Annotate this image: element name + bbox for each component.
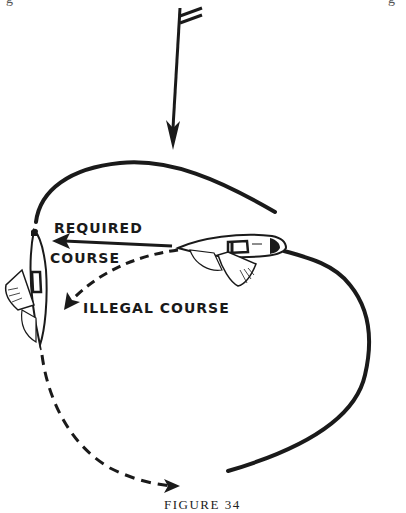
cropped-text-fragment-right: g [388,0,395,7]
boat-right-icon [178,235,286,286]
continuation-dashed-path [42,355,180,493]
required-course-label-line2: COURSE [50,250,120,266]
illegal-course-label: ILLEGAL COURSE [83,300,230,316]
cropped-text-fragment-left: g [6,0,13,7]
figure-caption: FIGURE 34 [164,497,241,513]
wind-arrow-icon [166,8,202,150]
course-line-solid [36,162,369,471]
required-course-label-line1: REQUIRED [54,220,143,236]
boat-left-icon [6,229,47,350]
